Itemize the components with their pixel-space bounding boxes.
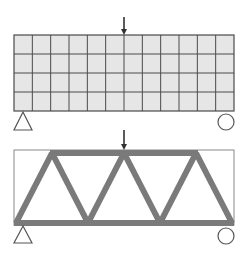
triangle-support-icon [14,226,32,243]
down-arrow-icon [121,17,127,35]
optimized-truss-panel [14,130,234,244]
triangle-support-icon [14,112,32,130]
circle-roller-icon [218,114,234,130]
mesh-domain-panel [14,17,234,130]
circle-roller-icon [218,228,234,244]
down-arrow-icon [121,130,127,150]
truss-members [14,153,234,223]
topology-diagram [0,0,245,257]
mesh-grid [14,35,234,111]
